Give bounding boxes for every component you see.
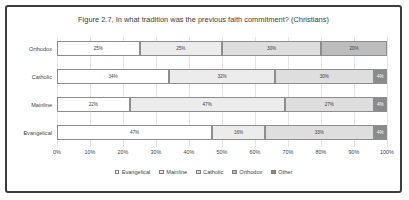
legend-item[interactable]: Mainline [159, 169, 187, 175]
bar-segment-catholic: 30% [275, 69, 374, 84]
bar-segment-catholic: 27% [285, 97, 374, 112]
bar-segment-catholic: 30% [222, 41, 321, 56]
plot-area: Orthodox25%25%30%20%Catholic34%32%30%4%M… [57, 37, 387, 147]
x-axis-tick: 40% [184, 149, 195, 155]
bar-segment-orthodox: 20% [321, 41, 387, 56]
x-axis-tick: 10% [85, 149, 96, 155]
chart-title: Figure 2.7, In what tradition was the pr… [9, 15, 398, 24]
gridline [387, 37, 388, 147]
bar-segment-evangelical: 34% [57, 69, 169, 84]
x-axis-tick: 50% [217, 149, 228, 155]
x-axis-tick: 30% [151, 149, 162, 155]
legend-item[interactable]: Evangelical [115, 169, 151, 175]
bar-segment-evangelical: 22% [57, 97, 130, 112]
bar-segment-other: 4% [374, 125, 387, 140]
bar-segment-mainline: 25% [140, 41, 223, 56]
legend-label: Catholic [203, 169, 223, 175]
category-label: Mainline [31, 102, 52, 108]
legend-item[interactable]: Catholic [196, 169, 223, 175]
x-axis-tick: 0% [53, 149, 61, 155]
chart-canvas: Figure 2.7, In what tradition was the pr… [9, 9, 398, 189]
x-axis-tick: 100% [380, 149, 394, 155]
bar-row: Orthodox25%25%30%20% [57, 41, 387, 56]
bar-segment-other: 4% [374, 69, 387, 84]
stacked-bar: 47%16%33%4% [57, 125, 387, 140]
legend-swatch-icon [271, 170, 276, 175]
legend-label: Other [278, 169, 292, 175]
legend-item[interactable]: Orthodox [232, 169, 262, 175]
category-label: Orthodox [29, 46, 52, 52]
bar-row: Evangelical47%16%33%4% [57, 125, 387, 140]
legend-item[interactable]: Other [271, 169, 292, 175]
bar-segment-evangelical: 25% [57, 41, 140, 56]
bar-row: Mainline22%47%27%4% [57, 97, 387, 112]
legend-swatch-icon [196, 170, 201, 175]
x-axis-tick: 80% [316, 149, 327, 155]
stacked-bar: 22%47%27%4% [57, 97, 387, 112]
category-label: Evangelical [23, 130, 52, 136]
bar-row: Catholic34%32%30%4% [57, 69, 387, 84]
stacked-bar: 34%32%30%4% [57, 69, 387, 84]
chart-legend: EvangelicalMainlineCatholicOrthodoxOther [9, 169, 398, 175]
x-axis-tick: 20% [118, 149, 129, 155]
category-label: Catholic [32, 74, 52, 80]
bar-segment-mainline: 16% [212, 125, 265, 140]
legend-swatch-icon [159, 170, 164, 175]
chart-frame: Figure 2.7, In what tradition was the pr… [5, 5, 402, 193]
bar-segment-other: 4% [374, 97, 387, 112]
legend-label: Mainline [166, 169, 187, 175]
x-axis-tick: 90% [349, 149, 360, 155]
bar-segment-catholic: 33% [265, 125, 374, 140]
x-axis: 0%10%20%30%40%50%60%70%80%90%100% [57, 149, 387, 161]
bar-segment-evangelical: 47% [57, 125, 212, 140]
legend-swatch-icon [115, 170, 120, 175]
legend-label: Evangelical [122, 169, 151, 175]
stacked-bar: 25%25%30%20% [57, 41, 387, 56]
x-axis-tick: 60% [250, 149, 261, 155]
legend-swatch-icon [232, 170, 237, 175]
bar-segment-mainline: 32% [169, 69, 275, 84]
bar-segment-mainline: 47% [130, 97, 285, 112]
legend-label: Orthodox [239, 169, 262, 175]
x-axis-tick: 70% [283, 149, 294, 155]
